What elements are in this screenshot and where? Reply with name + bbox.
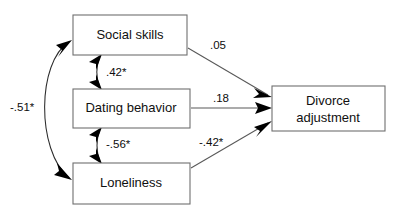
arrowhead-social-to-divorce (253, 88, 272, 98)
node-loneliness[interactable]: Loneliness (73, 163, 190, 204)
node-dating-behavior[interactable]: Dating behavior (73, 89, 190, 128)
coefficient-social-dating: .42* (106, 66, 127, 78)
node-divorce-adjustment[interactable]: Divorce adjustment (272, 86, 385, 131)
arrowhead-down-to-loneliness (89, 148, 102, 164)
path-dating-to-divorce (191, 102, 272, 114)
divorce-adjustment-label-line1: Divorce (306, 93, 350, 108)
arrowhead-to-loneliness (54, 163, 72, 180)
path-diagram-svg: Social skills Dating behavior Loneliness… (0, 0, 402, 218)
arrowhead-up-to-dating-behavior (89, 127, 102, 143)
arrowhead-down-to-dating-behavior (89, 74, 102, 90)
coefficient-loneliness-to-divorce: -.42* (199, 136, 224, 148)
coefficient-dating-loneliness: -.56* (106, 138, 131, 150)
coefficient-social-loneliness: -.51* (10, 101, 35, 113)
path-social-dating-correlation (89, 54, 102, 90)
social-skills-label: Social skills (96, 27, 164, 42)
path-social-to-divorce (188, 48, 272, 98)
path-dating-loneliness-correlation (89, 127, 102, 164)
path-social-loneliness-correlation (45, 40, 72, 180)
arrowhead-up-to-social-skills (89, 54, 102, 70)
social-to-divorce-line (188, 48, 268, 95)
dating-behavior-label: Dating behavior (85, 100, 177, 115)
social-loneliness-curve (45, 42, 69, 178)
node-social-skills[interactable]: Social skills (73, 15, 187, 55)
divorce-adjustment-label-line2: adjustment (296, 110, 360, 125)
arrowhead-to-social-skills (56, 40, 72, 57)
path-diagram-canvas: Social skills Dating behavior Loneliness… (0, 0, 402, 218)
coefficient-social-to-divorce: .05 (210, 39, 226, 51)
coefficient-dating-to-divorce: .18 (213, 92, 229, 104)
loneliness-label: Loneliness (100, 175, 163, 190)
